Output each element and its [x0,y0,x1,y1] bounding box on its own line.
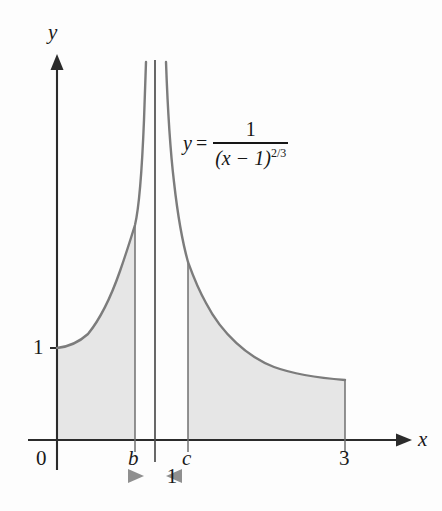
plot-canvas [0,0,442,511]
equation-denominator-exponent: 2/3 [271,146,286,160]
y-axis-label: y [48,22,57,43]
y-tick-label-1: 1 [33,337,44,358]
figure-container: y x 1 0 b c 3 y = 1 (x − 1)2/3 1 [0,0,442,511]
equation-annotation: y = 1 (x − 1)2/3 [183,118,288,169]
shaded-region-right [188,262,345,440]
equation-equals-sign: = [196,132,207,155]
shaded-region-left [57,225,135,440]
equation-denominator-base: (x − 1) [215,146,271,168]
equation-denominator: (x − 1)2/3 [213,144,288,170]
x-axis-label: x [418,429,427,450]
width-annotation: 1 [62,462,282,490]
x-axis-arrowhead [396,434,412,447]
equation-numerator: 1 [240,118,262,142]
equation-fraction: 1 (x − 1)2/3 [213,118,288,169]
x-tick-label-0: 0 [36,448,47,469]
width-annotation-label: 1 [160,464,185,489]
y-axis-arrowhead [51,54,64,70]
equation-lhs: y [183,132,192,155]
x-tick-label-3: 3 [339,448,350,469]
